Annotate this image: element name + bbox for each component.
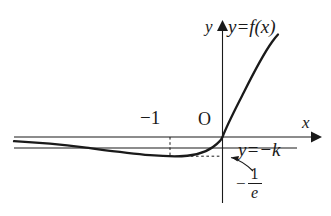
math-graph-figure: y y=f(x) x −1 O y=−k − 1 e — [0, 0, 331, 216]
fraction-numerator: 1 — [248, 166, 262, 183]
min-value-label-minus-one-over-e: − 1 e — [236, 166, 262, 201]
origin-label: O — [198, 110, 211, 128]
asymptote-label-y-equals-minus-k: y=−k — [238, 140, 281, 159]
y-axis-label: y — [205, 18, 213, 35]
x-axis-arrowhead-icon — [311, 132, 322, 143]
fraction-one-over-e: 1 e — [248, 166, 262, 201]
curve-label-y-equals-f-of-x: y=f(x) — [228, 17, 276, 36]
fraction-denominator: e — [248, 184, 261, 201]
x-axis-label: x — [302, 114, 310, 131]
min-value-minus-sign: − — [236, 175, 248, 192]
y-axis-arrowhead-icon — [217, 20, 228, 31]
x-tick-label-minus-one: −1 — [140, 108, 160, 127]
graph-canvas — [0, 0, 331, 216]
